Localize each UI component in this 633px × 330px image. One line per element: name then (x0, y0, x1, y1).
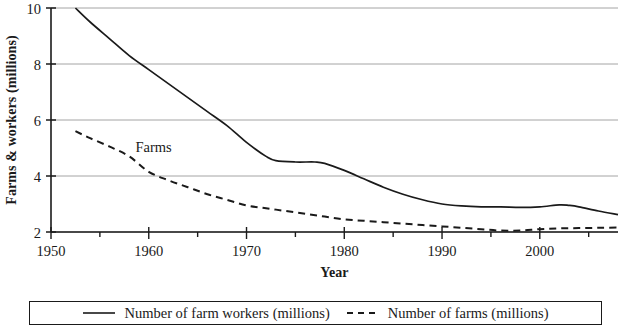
x-tick-label-1970: 1970 (232, 243, 261, 259)
legend-entry-farms: Number of farms (millions) (346, 306, 549, 321)
legend-label-farm-workers: Number of farm workers (millions) (124, 306, 329, 321)
x-tick-label-1960: 1960 (134, 243, 163, 259)
legend-entry-farm-workers: Number of farm workers (millions) (82, 306, 329, 321)
chart-annotations-group: Farms (136, 139, 173, 155)
gridlines-group (51, 8, 618, 232)
y-tick-label-10: 10 (27, 1, 42, 17)
y-tick-label-6: 6 (34, 113, 41, 129)
x-axis-title: Year (320, 265, 348, 280)
legend-dashed-line-icon (346, 308, 380, 318)
chart-legend: Number of farm workers (millions) Number… (29, 301, 602, 325)
y-tick-labels-group: 246810 (27, 1, 42, 241)
annotation-farms: Farms (136, 139, 173, 155)
series-line-number-of-farm-workers-millions (75, 8, 618, 215)
y-tick-label-2: 2 (34, 225, 41, 241)
y-tick-label-4: 4 (34, 169, 42, 185)
y-tick-label-8: 8 (34, 57, 41, 73)
tick-marks-group (46, 8, 589, 239)
data-series-group (75, 8, 618, 231)
x-tick-label-1990: 1990 (428, 243, 457, 259)
y-axis-title: Farms & workers (millions) (4, 35, 20, 205)
chart-plot-area: 195019601970198019902000 246810 Farms Fa… (0, 0, 633, 288)
x-tick-label-1950: 1950 (37, 243, 66, 259)
x-tick-label-1980: 1980 (330, 243, 359, 259)
legend-label-farms: Number of farms (millions) (388, 306, 549, 321)
x-tick-label-2000: 2000 (525, 243, 554, 259)
farms-and-workers-line-chart: 195019601970198019902000 246810 Farms Fa… (0, 0, 633, 330)
legend-solid-line-icon (82, 308, 116, 318)
x-tick-labels-group: 195019601970198019902000 (37, 243, 555, 259)
